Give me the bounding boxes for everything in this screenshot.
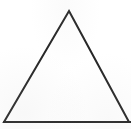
triangle-figure-svg	[0, 0, 131, 129]
figure-canvas	[0, 0, 131, 129]
figure-background	[0, 0, 131, 129]
